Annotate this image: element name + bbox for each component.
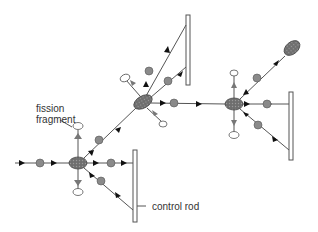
- nucleus-3: [225, 98, 243, 110]
- fission-fragments: [73, 70, 239, 196]
- control-rod-label: control rod: [152, 201, 199, 212]
- control-rod-bottom: [133, 150, 137, 222]
- fission-fragment-label-line2: fragment: [36, 114, 75, 125]
- control-rod-right: [289, 92, 293, 160]
- nucleus-4: [281, 38, 303, 59]
- nucleus-1: [69, 157, 87, 169]
- control-rod-top: [186, 15, 190, 85]
- fission-fragment-label: fission fragment: [36, 103, 75, 125]
- fission-fragment-label-line1: fission: [36, 103, 75, 114]
